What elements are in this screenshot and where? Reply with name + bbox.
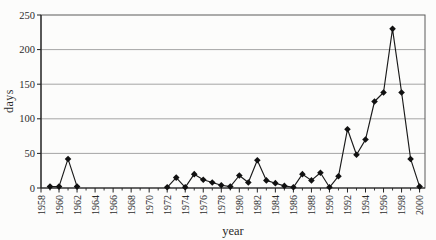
x-tick-label: 1978: [216, 195, 227, 215]
chart-figure: 0501001502002501958196019621964196619681…: [0, 0, 436, 240]
data-point-marker: [74, 183, 81, 190]
data-point-marker: [398, 89, 405, 96]
data-point-marker: [65, 156, 72, 163]
x-tick-label: 1968: [126, 195, 137, 215]
x-tick-label: 1994: [360, 195, 371, 215]
data-line-segment: [50, 159, 77, 187]
data-point-marker: [290, 184, 297, 191]
y-tick-label: 250: [19, 10, 35, 21]
x-tick-label: 1996: [378, 195, 389, 215]
data-point-marker: [191, 171, 198, 178]
data-point-marker: [344, 126, 351, 133]
x-tick-label: 2000: [414, 195, 425, 215]
x-tick-label: 1966: [108, 195, 119, 215]
plot-frame: [41, 15, 425, 188]
data-line-segment: [167, 29, 419, 188]
data-point-marker: [407, 156, 414, 163]
data-point-marker: [209, 179, 216, 186]
x-tick-label: 1980: [234, 195, 245, 215]
data-point-marker: [56, 183, 63, 190]
y-tick-label: 150: [19, 79, 35, 90]
line-chart: 0501001502002501958196019621964196619681…: [0, 0, 436, 240]
x-tick-label: 1958: [36, 195, 47, 215]
x-tick-label: 1992: [342, 195, 353, 215]
x-tick-label: 1988: [306, 195, 317, 215]
x-tick-label: 1962: [72, 195, 83, 215]
data-point-marker: [353, 151, 360, 158]
data-point-marker: [272, 180, 279, 187]
x-tick-label: 1990: [324, 195, 335, 215]
y-tick-label: 0: [30, 183, 35, 194]
data-point-marker: [389, 26, 396, 33]
x-tick-label: 1976: [198, 195, 209, 215]
y-tick-label: 50: [25, 148, 36, 159]
data-point-marker: [254, 157, 261, 164]
x-tick-label: 1964: [90, 195, 101, 215]
x-axis-title: year: [41, 224, 425, 239]
data-point-marker: [416, 183, 423, 190]
x-tick-label: 1974: [180, 195, 191, 215]
x-tick-label: 1972: [162, 195, 173, 215]
data-point-marker: [200, 176, 207, 183]
data-point-marker: [362, 136, 369, 143]
x-tick-label: 1998: [396, 195, 407, 215]
x-tick-label: 1986: [288, 195, 299, 215]
y-tick-label: 100: [19, 113, 35, 124]
data-point-marker: [263, 177, 270, 184]
data-point-marker: [47, 183, 54, 190]
y-tick-label: 200: [19, 44, 35, 55]
x-tick-label: 1970: [144, 195, 155, 215]
x-tick-label: 1982: [252, 195, 263, 215]
y-axis-title: days: [2, 65, 16, 137]
x-tick-label: 1960: [54, 195, 65, 215]
x-tick-label: 1984: [270, 195, 281, 215]
